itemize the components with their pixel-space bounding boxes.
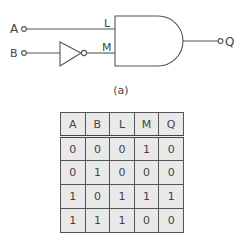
cell: 0: [134, 209, 159, 233]
cell: 0: [159, 137, 184, 161]
label-b: B: [10, 48, 18, 59]
not-gate-icon: [60, 42, 81, 66]
cell: 0: [110, 137, 135, 161]
header-b: B: [85, 113, 110, 137]
label-a: A: [10, 23, 18, 35]
table-row: 0 0 0 1 0: [61, 137, 184, 161]
figure-caption: (a): [0, 84, 242, 97]
label-l: L: [104, 18, 110, 29]
cell: 0: [159, 209, 184, 233]
cell: 1: [134, 137, 159, 161]
cell: 1: [85, 161, 110, 185]
header-q: Q: [159, 113, 184, 137]
cell: 0: [110, 161, 135, 185]
header-m: M: [134, 113, 159, 137]
output-q-terminal: [218, 39, 223, 44]
cell: 0: [159, 161, 184, 185]
input-b-terminal: [22, 51, 27, 56]
truth-table: A B L M Q 0 0 0 1 0 0 1 0 0 0 1 0 1 1 1: [60, 112, 184, 233]
cell: 1: [110, 185, 135, 209]
cell: 1: [61, 209, 86, 233]
cell: 1: [134, 185, 159, 209]
cell: 1: [159, 185, 184, 209]
and-gate-icon: [115, 16, 183, 66]
cell: 0: [85, 137, 110, 161]
input-a-terminal: [22, 27, 27, 32]
label-q: Q: [225, 36, 234, 48]
cell: 1: [110, 209, 135, 233]
not-gate-bubble: [81, 50, 86, 55]
table-header-row: A B L M Q: [61, 113, 184, 137]
cell: 1: [85, 209, 110, 233]
cell: 0: [134, 161, 159, 185]
header-a: A: [61, 113, 86, 137]
cell: 0: [85, 185, 110, 209]
cell: 1: [61, 185, 86, 209]
table-row: 1 1 1 0 0: [61, 209, 184, 233]
table-row: 1 0 1 1 1: [61, 185, 184, 209]
cell: 0: [61, 137, 86, 161]
label-m: M: [102, 42, 112, 53]
header-l: L: [110, 113, 135, 137]
table-row: 0 1 0 0 0: [61, 161, 184, 185]
cell: 0: [61, 161, 86, 185]
